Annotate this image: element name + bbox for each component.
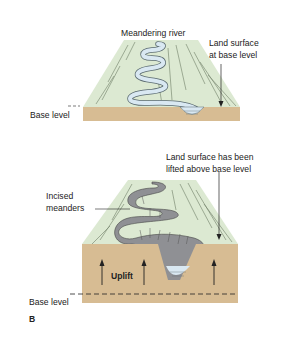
land-surface-at-base-label-line1: Land surface: [209, 38, 259, 49]
meandering-river-label: Meandering river: [121, 28, 185, 39]
land-surface-lifted-label-line2: lifted above base level: [166, 164, 251, 175]
panel-b-illustration: [70, 172, 238, 303]
panel-letter-b: B: [29, 314, 35, 325]
base-level-label-b: Base level: [29, 297, 69, 308]
incised-meanders-label-line1: Incised: [46, 191, 73, 202]
uplift-label: Uplift: [111, 271, 133, 282]
land-surface-at-base-label-line2: at base level: [209, 50, 257, 61]
land-surface-lifted-label-line1: Land surface has been: [166, 152, 253, 163]
base-level-label-a: Base level: [30, 110, 70, 121]
base-block-a: [83, 107, 240, 121]
incised-meanders-label-line2: meanders: [46, 203, 84, 214]
